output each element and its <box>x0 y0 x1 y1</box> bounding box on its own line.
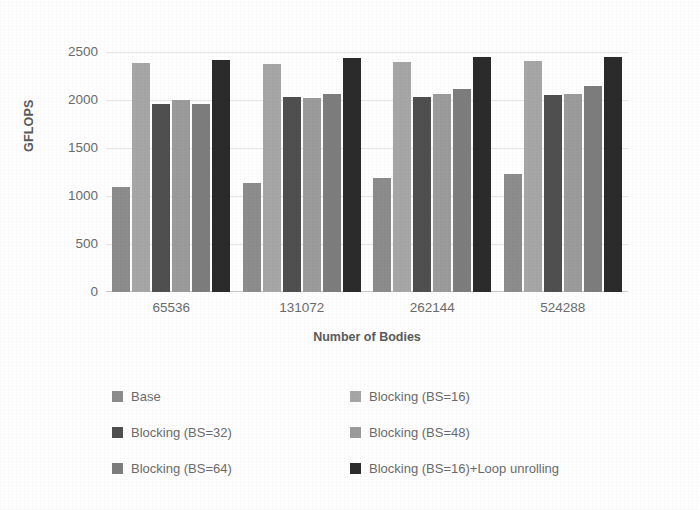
x-axis-title: Number of Bodies <box>106 330 628 344</box>
bar <box>413 97 431 292</box>
bar <box>172 100 190 292</box>
bar-group <box>243 52 361 292</box>
bar <box>473 57 491 292</box>
legend-label: Blocking (BS=48) <box>369 425 470 440</box>
y-tick-label: 1500 <box>40 141 98 155</box>
bar <box>112 187 130 292</box>
legend-swatch-icon <box>350 463 361 474</box>
chart-figure: GFLOPS 25002000150010005000 655361310722… <box>0 0 700 510</box>
bar <box>192 104 210 292</box>
bar-groups <box>106 52 628 292</box>
y-axis-title: GFLOPS <box>22 122 36 152</box>
legend-label: Blocking (BS=64) <box>131 461 232 476</box>
legend-label: Blocking (BS=32) <box>131 425 232 440</box>
legend-item[interactable]: Blocking (BS=32) <box>112 425 350 440</box>
bar-group <box>504 52 622 292</box>
legend-swatch-icon <box>112 391 123 402</box>
bar <box>303 98 321 292</box>
y-tick-label: 500 <box>40 237 98 251</box>
x-tick-label: 131072 <box>242 300 362 315</box>
y-tick-label: 2000 <box>40 93 98 107</box>
bar <box>544 95 562 292</box>
bar <box>212 60 230 292</box>
bar <box>453 89 471 292</box>
bar <box>343 58 361 292</box>
chart-legend: BaseBlocking (BS=16)Blocking (BS=32)Bloc… <box>112 378 632 486</box>
legend-item[interactable]: Base <box>112 389 350 404</box>
bar <box>263 64 281 292</box>
bar <box>132 63 150 292</box>
bar <box>393 62 411 292</box>
bar <box>584 86 602 292</box>
bar <box>504 174 522 292</box>
y-tick-label: 2500 <box>40 45 98 59</box>
bar-group <box>373 52 491 292</box>
y-axis-ticks: 25002000150010005000 <box>40 0 98 300</box>
legend-swatch-icon <box>112 463 123 474</box>
bar <box>243 183 261 292</box>
bar <box>433 94 451 292</box>
y-tick-label: 0 <box>40 285 98 299</box>
x-tick-label: 65536 <box>111 300 231 315</box>
legend-swatch-icon <box>350 427 361 438</box>
legend-label: Blocking (BS=16)+Loop unrolling <box>369 461 559 476</box>
legend-item[interactable]: Blocking (BS=48) <box>350 425 632 440</box>
bar <box>283 97 301 292</box>
bar <box>564 94 582 292</box>
legend-item[interactable]: Blocking (BS=16) <box>350 389 632 404</box>
y-tick-label: 1000 <box>40 189 98 203</box>
legend-label: Blocking (BS=16) <box>369 389 470 404</box>
legend-item[interactable]: Blocking (BS=64) <box>112 461 350 476</box>
bar-group <box>112 52 230 292</box>
legend-swatch-icon <box>112 427 123 438</box>
bar <box>323 94 341 292</box>
bar <box>152 104 170 292</box>
x-tick-label: 262144 <box>372 300 492 315</box>
plot-area: GFLOPS 25002000150010005000 655361310722… <box>0 0 700 360</box>
legend-swatch-icon <box>350 391 361 402</box>
bar <box>524 61 542 292</box>
legend-item[interactable]: Blocking (BS=16)+Loop unrolling <box>350 461 632 476</box>
bar <box>373 178 391 292</box>
x-axis-ticks: 65536131072262144524288 <box>106 300 628 315</box>
x-tick-label: 524288 <box>503 300 623 315</box>
legend-label: Base <box>131 389 161 404</box>
bar <box>604 57 622 292</box>
